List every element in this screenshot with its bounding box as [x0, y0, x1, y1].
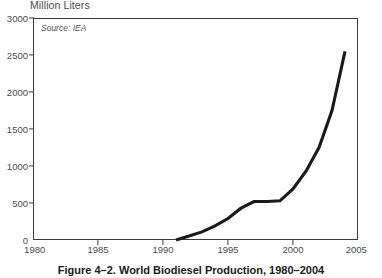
y-tick-label-2500: 2500: [0, 50, 28, 61]
y-tick-label-1500: 1500: [0, 124, 28, 135]
source-note: Source: IEA: [41, 23, 86, 33]
figure-container: Million Liters Source: IEA 3000 2500 200…: [0, 0, 382, 278]
x-tick-label-1985: 1985: [87, 244, 108, 255]
y-tick-label-3000: 3000: [0, 13, 28, 24]
y-tick-label-2000: 2000: [0, 87, 28, 98]
y-tick-mark-1000: [29, 165, 34, 166]
x-tick-label-1980: 1980: [24, 244, 45, 255]
y-axis-unit-title: Million Liters: [30, 0, 90, 11]
y-tick-mark-500: [29, 202, 34, 203]
x-tick-label-2005: 2005: [346, 244, 367, 255]
y-tick-mark-2000: [29, 91, 34, 92]
figure-caption: Figure 4–2. World Biodiesel Production, …: [0, 264, 382, 276]
x-tick-label-1995: 1995: [217, 244, 238, 255]
y-tick-mark-1500: [29, 128, 34, 129]
x-tick-label-2000: 2000: [282, 244, 303, 255]
y-tick-mark-3000: [29, 17, 34, 18]
y-axis-ticks: 3000 2500 2000 1500 1000 500 0: [0, 0, 33, 278]
x-tick-label-1990: 1990: [152, 244, 173, 255]
y-tick-label-1000: 1000: [0, 161, 28, 172]
plot-frame: [33, 18, 358, 240]
y-tick-mark-2500: [29, 54, 34, 55]
y-tick-label-500: 500: [0, 198, 28, 209]
